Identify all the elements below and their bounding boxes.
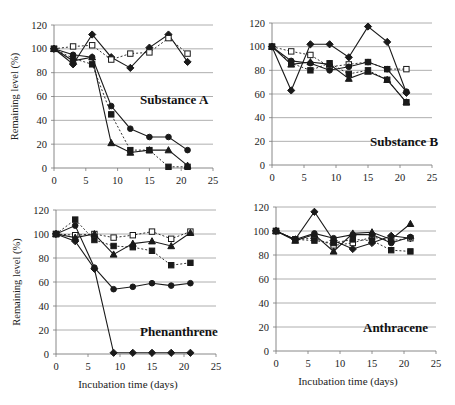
square-marker-icon <box>149 229 154 234</box>
x-tick-label: 10 <box>112 175 123 186</box>
square-marker-icon <box>312 238 317 243</box>
square-marker-icon <box>147 50 152 55</box>
diamond-marker-icon <box>187 349 194 356</box>
diamond-marker-icon <box>168 349 175 356</box>
circle-marker-icon <box>404 89 410 95</box>
x-tick-label: 15 <box>367 358 378 369</box>
x-tick-label: 0 <box>51 175 56 186</box>
square-marker-icon <box>331 240 336 245</box>
circle-marker-icon <box>92 265 98 271</box>
x-tick-label: 0 <box>273 358 278 369</box>
chart-panel-substance-b: 0204060801001200510152025Substance B <box>249 18 438 184</box>
square-marker-icon <box>73 217 78 222</box>
circle-marker-icon <box>130 284 136 290</box>
y-tick-label: 60 <box>255 89 266 100</box>
y-tick-label: 60 <box>37 91 48 102</box>
circle-marker-icon <box>384 66 390 72</box>
y-tick-label: 120 <box>253 202 269 213</box>
square-marker-icon <box>166 164 171 169</box>
x-tick-label: 20 <box>395 172 406 183</box>
triangle-marker-icon <box>407 220 414 226</box>
diamond-marker-icon <box>349 245 356 252</box>
diamond-marker-icon <box>311 208 318 215</box>
square-marker-icon <box>169 236 174 241</box>
circle-marker-icon <box>185 147 191 153</box>
square-marker-icon <box>149 248 154 253</box>
chart-panel-anthracene: 0204060801001200510152025AnthraceneIncub… <box>253 202 441 389</box>
y-tick-label: 80 <box>39 253 50 264</box>
y-tick-label: 0 <box>264 346 269 357</box>
x-tick-label: 5 <box>301 172 306 183</box>
y-tick-label: 100 <box>31 43 47 54</box>
square-marker-icon <box>188 260 193 265</box>
square-marker-icon <box>111 243 116 248</box>
panel-title: Substance A <box>140 92 209 107</box>
y-tick-label: 120 <box>249 18 265 29</box>
square-marker-icon <box>308 52 313 57</box>
circle-marker-icon <box>408 234 414 240</box>
square-marker-icon <box>111 235 116 240</box>
y-tick-label: 40 <box>39 301 50 312</box>
square-marker-icon <box>166 35 171 40</box>
y-tick-label: 80 <box>37 67 48 78</box>
x-tick-label: 20 <box>179 361 190 372</box>
square-marker-icon <box>308 68 313 73</box>
y-tick-label: 80 <box>259 250 270 261</box>
circle-marker-icon <box>365 59 371 65</box>
square-marker-icon <box>408 249 413 254</box>
x-tick-label: 10 <box>335 358 346 369</box>
x-tick-label: 0 <box>269 172 274 183</box>
x-tick-label: 15 <box>144 175 155 186</box>
x-tick-label: 0 <box>53 361 58 372</box>
chart-canvas: 0204060801001200510152025Substance ARema… <box>0 0 455 405</box>
y-tick-label: 100 <box>33 229 49 240</box>
diamond-marker-icon <box>184 58 191 65</box>
y-tick-label: 100 <box>249 41 265 52</box>
square-marker-icon <box>109 57 114 62</box>
square-marker-icon <box>389 248 394 253</box>
x-tick-label: 25 <box>211 361 222 372</box>
circle-marker-icon <box>346 64 352 70</box>
square-marker-icon <box>350 237 355 242</box>
circle-marker-icon <box>111 286 117 292</box>
x-tick-label: 5 <box>85 361 90 372</box>
square-marker-icon <box>130 233 135 238</box>
square-marker-icon <box>70 44 75 49</box>
y-tick-label: 100 <box>253 226 269 237</box>
square-marker-icon <box>128 51 133 56</box>
diamond-marker-icon <box>129 349 136 356</box>
x-tick-label: 25 <box>431 358 442 369</box>
x-tick-label: 5 <box>83 175 88 186</box>
x-tick-label: 25 <box>208 175 219 186</box>
chart-panel-phenanthrene: 0204060801001200510152025PhenanthreneRem… <box>11 205 221 392</box>
series-diamond-solid <box>272 208 414 252</box>
y-axis-label: Remaining level (%) <box>11 238 23 326</box>
x-tick-label: 10 <box>115 361 126 372</box>
diamond-marker-icon <box>345 54 352 61</box>
square-marker-icon <box>89 43 94 48</box>
circle-marker-icon <box>168 283 174 289</box>
x-axis-label: Incubation time (days) <box>78 378 178 391</box>
square-marker-icon <box>289 49 294 54</box>
y-tick-label: 60 <box>39 277 50 288</box>
circle-marker-icon <box>149 280 155 286</box>
x-tick-label: 15 <box>363 172 374 183</box>
y-tick-label: 60 <box>259 274 270 285</box>
x-tick-label: 15 <box>147 361 158 372</box>
x-tick-label: 10 <box>331 172 342 183</box>
chart-panel-substance-a: 0204060801001200510152025Substance ARema… <box>9 20 218 187</box>
x-tick-label: 5 <box>305 358 310 369</box>
y-tick-label: 20 <box>259 322 270 333</box>
y-tick-label: 20 <box>39 325 50 336</box>
x-tick-label: 20 <box>176 175 187 186</box>
circle-marker-icon <box>147 134 153 140</box>
x-tick-label: 20 <box>399 358 410 369</box>
y-tick-label: 40 <box>259 298 270 309</box>
y-tick-label: 40 <box>255 112 266 123</box>
y-tick-label: 0 <box>44 349 49 360</box>
y-tick-label: 20 <box>37 139 48 150</box>
y-tick-label: 0 <box>42 163 47 174</box>
diamond-marker-icon <box>110 349 117 356</box>
circle-marker-icon <box>166 134 172 140</box>
panel-title: Phenanthrene <box>140 324 218 339</box>
